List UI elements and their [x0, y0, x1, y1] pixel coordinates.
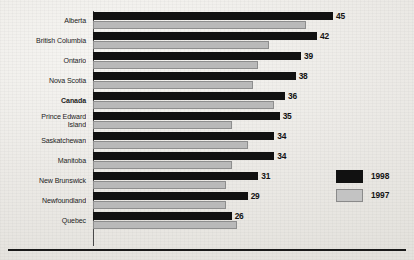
- bar-1998: [93, 92, 285, 100]
- bar-value-label: 45: [333, 11, 345, 21]
- bar-group: 42: [93, 31, 414, 51]
- chart-row: Quebec26: [0, 211, 414, 231]
- bar-1997: [93, 101, 274, 109]
- legend-label: 1998: [371, 171, 389, 181]
- bar-1997: [93, 141, 248, 149]
- bar-1998: [93, 132, 274, 140]
- bar-1998: [93, 52, 301, 60]
- bar-1997: [93, 201, 226, 209]
- chart-row: Canada36: [0, 91, 414, 111]
- category-label: Saskatchewan: [6, 131, 86, 151]
- bar-1998: [93, 112, 280, 120]
- bar-1997: [93, 121, 232, 129]
- category-label: Newfoundland: [6, 191, 86, 211]
- bar-value-label: 36: [285, 91, 297, 101]
- category-label: Quebec: [6, 211, 86, 231]
- bar-value-label: 35: [280, 111, 292, 121]
- bar-value-label: 34: [274, 131, 286, 141]
- bar-group: 34: [93, 131, 414, 151]
- bar-group: 31: [93, 171, 414, 191]
- bar-value-label: 39: [301, 51, 313, 61]
- bar-1998: [93, 152, 274, 160]
- legend-swatch-1997: [336, 189, 363, 202]
- bar-1997: [93, 221, 237, 229]
- bottom-rule: [8, 249, 406, 251]
- bar-value-label: 38: [296, 71, 308, 81]
- horizontal-bar-chart: Alberta45British Columbia42Ontario39Nova…: [0, 0, 414, 260]
- category-label: Nova Scotia: [6, 71, 86, 91]
- category-label: Prince Edward Island: [6, 111, 86, 131]
- bar-1997: [93, 81, 253, 89]
- bar-value-label: 34: [274, 151, 286, 161]
- category-label: British Columbia: [6, 31, 86, 51]
- bar-group: 29: [93, 191, 414, 211]
- bar-1998: [93, 32, 317, 40]
- bar-1998: [93, 12, 333, 20]
- bar-1997: [93, 21, 306, 29]
- legend-label: 1997: [371, 190, 389, 200]
- chart-row: Nova Scotia38: [0, 71, 414, 91]
- bar-1998: [93, 172, 258, 180]
- bar-group: 38: [93, 71, 414, 91]
- bar-group: 39: [93, 51, 414, 71]
- chart-row: Alberta45: [0, 11, 414, 31]
- chart-row: British Columbia42: [0, 31, 414, 51]
- bar-1997: [93, 61, 258, 69]
- bar-group: 45: [93, 11, 414, 31]
- chart-row: Prince Edward Island35: [0, 111, 414, 131]
- chart-row: Ontario39: [0, 51, 414, 71]
- bar-value-label: 31: [258, 171, 270, 181]
- bar-1997: [93, 181, 226, 189]
- bar-1998: [93, 212, 232, 220]
- bar-1997: [93, 41, 269, 49]
- bar-1998: [93, 72, 296, 80]
- bar-group: 36: [93, 91, 414, 111]
- bar-value-label: 26: [232, 211, 244, 221]
- bar-group: 35: [93, 111, 414, 131]
- bar-1998: [93, 192, 248, 200]
- category-label: Ontario: [6, 51, 86, 71]
- chart-row: Saskatchewan34: [0, 131, 414, 151]
- category-label: Alberta: [6, 11, 86, 31]
- bar-1997: [93, 161, 232, 169]
- chart-row: Manitoba34: [0, 151, 414, 171]
- category-label: Manitoba: [6, 151, 86, 171]
- bar-group: 34: [93, 151, 414, 171]
- bar-group: 26: [93, 211, 414, 231]
- bar-value-label: 29: [248, 191, 260, 201]
- legend-swatch-1998: [336, 170, 363, 183]
- bar-value-label: 42: [317, 31, 329, 41]
- category-label: Canada: [6, 91, 86, 111]
- category-label: New Brunswick: [6, 171, 86, 191]
